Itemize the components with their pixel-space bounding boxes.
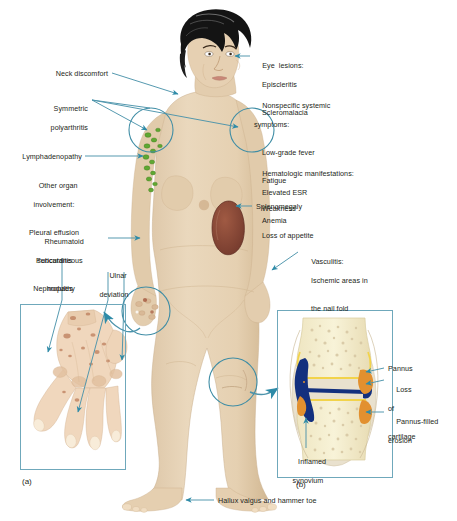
pannus-erosion-line2: erosion: [388, 436, 438, 445]
right-hand: [245, 282, 270, 323]
knee-crease: [222, 387, 242, 389]
vasculitis-heading: Vasculitis:: [311, 257, 343, 266]
label-pannus-filled-erosion: Pannus-filled erosion: [388, 408, 438, 464]
spleen: [212, 201, 244, 255]
inflamed-synovium-line2: synovium: [282, 476, 334, 485]
hair-highlight-1: [196, 14, 234, 22]
hair: [180, 9, 251, 68]
rheumatoid-arthritis-figure: Eye lesions: Episcleritis Scleromalacia …: [0, 0, 457, 521]
label-neck-discomfort: Neck discomfort: [0, 69, 108, 78]
mouth: [212, 77, 227, 81]
pannus-erosion-line1: Pannus-filled: [396, 417, 438, 426]
loss-cartilage-line1: Loss: [396, 385, 411, 394]
nose: [214, 56, 223, 71]
hematologic-item-0: Elevated ESR: [254, 188, 354, 197]
leader-polyarthritis-right: [92, 100, 238, 127]
groin-line-r: [208, 300, 244, 338]
leader-knee-to-panel-b: [250, 388, 278, 395]
eye-lesions-heading: Eye lesions:: [262, 61, 303, 70]
neck: [195, 70, 236, 97]
hair-sideburn: [180, 50, 187, 78]
sternum-shade: [199, 200, 209, 210]
hip-line: [158, 286, 254, 292]
eye-right: [226, 52, 234, 57]
vasculitis-item-1: the nail fold: [303, 304, 368, 313]
groin-line-l: [168, 300, 206, 338]
left-foot: [122, 488, 182, 511]
panel-a-frame: [20, 304, 126, 470]
label-vasculitis: Vasculitis: Ischemic areas in the nail f…: [303, 248, 368, 332]
breast-right: [211, 177, 243, 212]
spleen-highlight: [216, 210, 220, 240]
other-organ-heading-line1: Other organ: [39, 181, 78, 190]
shoulder-circle-left: [129, 108, 173, 152]
face: [188, 21, 239, 88]
label-lymphadenopathy: Lymphadenopathy: [0, 152, 82, 161]
inflamed-synovium-line1: Inflamed: [298, 457, 326, 466]
polyarthritis-line1: Symmetric: [54, 104, 88, 113]
label-splenomegaly: Splenomegaly: [256, 202, 302, 211]
nodules-line1: Rheumatoid: [44, 237, 83, 246]
waist-line: [160, 246, 248, 251]
eye-left: [205, 52, 213, 57]
knee-line-left: [166, 362, 196, 366]
hematologic-heading: Hematologic manifestations:: [262, 169, 354, 178]
nonspecific-heading-line2: symptoms:: [254, 120, 330, 129]
vasculitis-item-0: Ischemic areas in: [303, 276, 368, 285]
hematologic-item-1: Anemia: [254, 216, 354, 225]
other-organ-heading-line2: involvement:: [8, 200, 100, 209]
eyebrow-right: [225, 46, 236, 49]
eye-lesions-item-0: Episcleritis: [254, 80, 308, 89]
nonspecific-heading-line1: Nonspecific systemic: [262, 101, 330, 110]
label-pannus: Pannus: [388, 364, 413, 373]
lymph-node-chain: [143, 128, 162, 192]
knee-contour: [243, 370, 247, 391]
leader-neck-discomfort: [112, 73, 178, 94]
body-silhouette: [144, 91, 268, 500]
leader-polyarthritis-stem: [92, 100, 150, 108]
hair-highlight-3: [186, 28, 208, 36]
cheek-line: [203, 64, 206, 80]
label-ulnar-deviation: Ulnar deviation: [88, 262, 140, 318]
panel-b-caption: (b): [296, 480, 306, 489]
breast-left: [162, 176, 193, 211]
label-symmetric-polyarthritis: Symmetric polyarthritis: [0, 95, 88, 151]
ulnar-line1: Ulnar: [109, 271, 126, 280]
label-hallux-valgus: Hallux valgus and hammer toe: [218, 496, 316, 505]
ulnar-line2: deviation: [88, 290, 140, 299]
leader-polyarthritis-left: [92, 100, 147, 130]
pupil-left: [208, 53, 211, 56]
polyarthritis-line2: polyarthritis: [0, 123, 88, 132]
ear: [236, 60, 240, 70]
knee-line-right: [216, 376, 246, 380]
panel-a-caption: (a): [22, 477, 32, 486]
hair-highlight-2: [190, 20, 224, 24]
knee-circle: [209, 358, 257, 406]
eyebrow-left: [203, 46, 216, 48]
pupil-right: [229, 53, 232, 56]
nonspecific-item-0: Low-grade fever: [254, 148, 330, 157]
